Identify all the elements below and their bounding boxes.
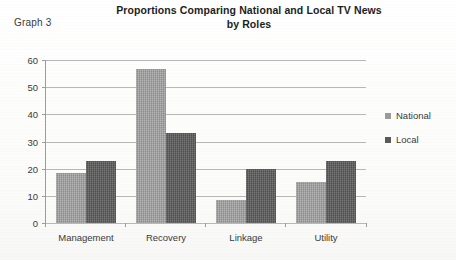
bar-local[interactable] [86, 161, 116, 223]
x-axis-tick [45, 223, 46, 227]
x-axis-tick [285, 223, 286, 227]
bar-group: Management [46, 60, 126, 223]
y-axis-tick-label: 0 [33, 218, 38, 229]
bar-national[interactable] [216, 200, 246, 223]
legend-label: National [396, 110, 431, 121]
legend-swatch-icon [385, 113, 391, 119]
x-axis-tick-label: Linkage [229, 232, 262, 243]
x-axis-tick-label: Management [58, 232, 113, 243]
y-axis-tick-label: 40 [27, 109, 38, 120]
legend-item-national[interactable]: National [385, 110, 431, 121]
bar-group: Linkage [206, 60, 286, 223]
plot-area: 0102030405060 ManagementRecoveryLinkageU… [46, 60, 366, 223]
x-axis-tick-label: Recovery [146, 232, 186, 243]
y-axis-tick-label: 60 [27, 55, 38, 66]
y-axis-tick-label: 50 [27, 82, 38, 93]
y-axis-tick-label: 30 [27, 136, 38, 147]
legend-item-local[interactable]: Local [385, 134, 431, 145]
y-axis-tick-label: 10 [27, 190, 38, 201]
bar-national[interactable] [296, 182, 326, 223]
x-axis-tick-label: Utility [314, 232, 337, 243]
bar-group: Recovery [126, 60, 206, 223]
bar-groups: ManagementRecoveryLinkageUtility [46, 60, 366, 223]
bar-national[interactable] [56, 173, 86, 223]
bar-local[interactable] [166, 133, 196, 223]
gridline [46, 223, 366, 224]
bar-local[interactable] [246, 169, 276, 223]
bar-local[interactable] [326, 161, 356, 223]
legend-label: Local [396, 134, 419, 145]
x-axis-tick [366, 223, 367, 227]
y-axis-tick-label: 20 [27, 163, 38, 174]
legend-swatch-icon [385, 137, 391, 143]
x-axis-tick [125, 223, 126, 227]
chart-legend: NationalLocal [385, 110, 431, 145]
x-axis-tick [205, 223, 206, 227]
bar-national[interactable] [136, 69, 166, 223]
bar-group: Utility [286, 60, 366, 223]
